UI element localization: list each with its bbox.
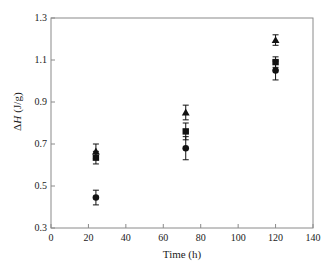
marker-triangle [182, 109, 190, 116]
marker-triangle [272, 36, 280, 43]
plot-area [0, 0, 335, 272]
marker-square [93, 154, 99, 160]
axes-frame [51, 18, 313, 228]
marker-circle [272, 67, 279, 74]
axes-box [51, 18, 313, 228]
marker-circle [182, 145, 189, 152]
tick-marks [51, 18, 313, 228]
marker-square [183, 128, 189, 134]
data-point [272, 35, 280, 46]
data-point [93, 190, 100, 205]
data-point [182, 105, 190, 120]
data-points [92, 35, 279, 205]
chart-figure: ΔH (J/g) Time (h) 0.30.50.70.91.11.3 020… [0, 0, 335, 272]
marker-circle [93, 194, 100, 201]
